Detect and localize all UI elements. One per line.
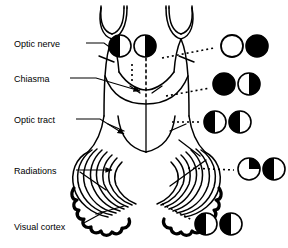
field-circle-nerve-right (134, 35, 156, 57)
label-optic-tract: Optic tract (14, 115, 55, 125)
leader-visual-cortex (82, 212, 104, 224)
field-circle-quadrant-left (238, 158, 260, 180)
field-defect-circles (109, 35, 285, 235)
field-circle-homonymous-left (204, 111, 226, 133)
label-radiations: Radiations (14, 166, 57, 176)
field-circle-chiasma-right (246, 35, 268, 57)
field-circle-homonymous-right (229, 111, 251, 133)
pointer-radiation-field (188, 168, 234, 170)
field-circle-tract-left (213, 73, 235, 95)
field-circle-quadrant-right (263, 158, 285, 180)
figure-canvas: Optic nerve Chiasma Optic tract Radiatio… (0, 0, 288, 248)
field-circle-nerve-left (109, 35, 131, 57)
field-circle-cortex-right (220, 213, 242, 235)
field-circle-tract-right (238, 73, 260, 95)
label-optic-nerve: Optic nerve (14, 39, 60, 49)
pointer-chiasma-field (162, 48, 214, 58)
field-circle-chiasma-left (221, 35, 243, 57)
label-chiasma: Chiasma (14, 74, 50, 84)
field-circle-cortex-left (195, 213, 217, 235)
label-visual-cortex: Visual cortex (14, 222, 65, 232)
